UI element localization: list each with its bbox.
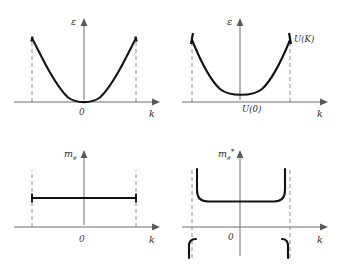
gap-at-zone-edge-label: U(K): [294, 34, 314, 44]
y-axis-label-top-left: ε: [71, 16, 76, 27]
y-axis-label-bottom-right: me*: [218, 147, 235, 162]
curve-cap-right: [135, 37, 136, 42]
x-axis-label-bottom-right: k: [317, 234, 323, 245]
x-axis-arrow-icon: [320, 99, 328, 106]
y-axis-arrow-icon: [81, 18, 88, 26]
effective-mass-positive-branch: [197, 169, 285, 202]
physics-figure: ε 0 k ε U(K) U(0) k: [0, 0, 337, 268]
origin-label-bottom-left: 0: [79, 234, 85, 244]
mass-symbol: m: [218, 148, 227, 159]
x-axis-label-bottom-left: k: [149, 234, 155, 245]
y-axis-arrow-icon: [237, 150, 244, 158]
mass-subscript: e: [73, 154, 77, 162]
y-axis-label-top-right: ε: [227, 16, 232, 27]
panel-top-right: ε U(K) U(0) k: [168, 0, 337, 134]
band-dispersion-curve: [192, 40, 290, 95]
origin-label-bottom-right: 0: [228, 232, 234, 242]
y-axis-arrow-icon: [237, 18, 244, 26]
x-axis-label-top-right: k: [317, 108, 323, 119]
panel-bottom-left: me 0 k: [0, 132, 169, 268]
x-axis-arrow-icon: [152, 99, 160, 106]
panel-top-left: ε 0 k: [0, 0, 169, 134]
origin-label-top-left: 0: [79, 107, 85, 117]
curve-cap-left: [31, 37, 32, 42]
x-axis-label-top-left: k: [149, 108, 155, 119]
mass-star-superscript: *: [231, 147, 235, 156]
gap-at-center-label: U(0): [242, 104, 261, 114]
x-axis-arrow-icon: [152, 224, 160, 231]
mass-symbol: m: [64, 148, 73, 159]
effective-mass-negative-branch-right: [282, 239, 288, 258]
x-axis-arrow-icon: [320, 224, 328, 231]
y-axis-arrow-icon: [81, 150, 88, 158]
y-axis-label-bottom-left: me: [64, 148, 77, 162]
panel-bottom-right: me* 0 k: [168, 132, 337, 268]
